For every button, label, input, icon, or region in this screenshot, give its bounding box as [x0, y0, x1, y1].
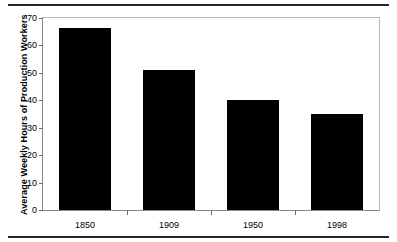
y-tick-mark: [39, 73, 43, 74]
y-tick-mark: [39, 18, 43, 19]
x-tick-label: 1950: [243, 220, 263, 230]
x-tick-mark: [295, 210, 296, 215]
plot-area: 010203040506070 1850190919501998: [42, 17, 380, 211]
x-tick-mark: [127, 210, 128, 215]
x-tick-label: 1850: [75, 220, 95, 230]
x-tick-label: 1998: [327, 220, 347, 230]
x-tick-label: 1909: [159, 220, 179, 230]
y-tick-label: 70: [27, 13, 37, 23]
y-tick-label: 0: [32, 205, 37, 215]
chart-figure: Average Weekly Hours of Production Worke…: [0, 0, 397, 242]
y-tick-mark: [39, 155, 43, 156]
y-tick-label: 30: [27, 123, 37, 133]
bottom-rule: [8, 236, 389, 238]
y-tick-mark: [39, 183, 43, 184]
y-tick-label: 50: [27, 68, 37, 78]
bar: [143, 70, 195, 210]
y-tick-label: 20: [27, 150, 37, 160]
y-tick-label: 10: [27, 178, 37, 188]
y-tick-label: 60: [27, 40, 37, 50]
y-tick-mark: [39, 100, 43, 101]
y-tick-mark: [39, 128, 43, 129]
y-tick-mark: [39, 45, 43, 46]
bar: [311, 114, 363, 210]
bar: [59, 28, 111, 210]
x-tick-mark: [211, 210, 212, 215]
y-tick-mark: [39, 210, 43, 211]
bar: [227, 100, 279, 210]
y-tick-label: 40: [27, 95, 37, 105]
top-rule: [8, 4, 389, 6]
